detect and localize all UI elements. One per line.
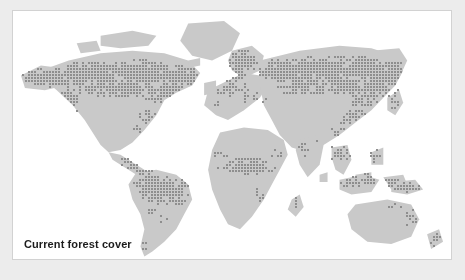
figure-frame: Current forest cover	[0, 0, 465, 280]
map-figure-panel: Current forest cover	[12, 10, 452, 260]
world-forest-cover-map	[13, 11, 451, 259]
map-caption: Current forest cover	[24, 238, 132, 250]
